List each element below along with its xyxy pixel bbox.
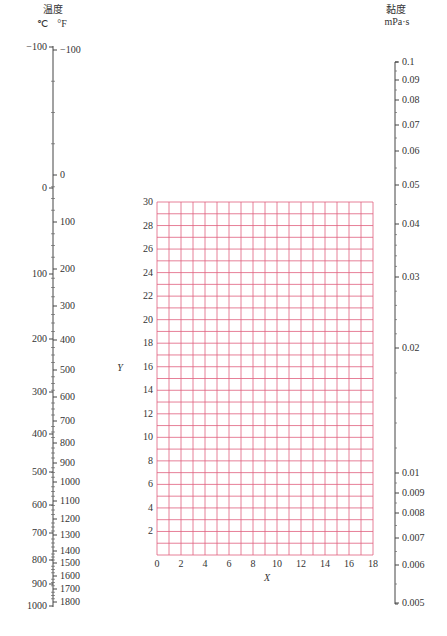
fahrenheit-tick-label: 300: [60, 301, 75, 311]
y-tick-label: 4: [148, 503, 153, 513]
celsius-tick-label: −100: [26, 42, 47, 52]
viscosity-tick-label: 0.01: [402, 468, 420, 478]
y-axis-label: Y: [117, 363, 123, 373]
temperature-axis-title: 温度: [43, 5, 63, 15]
viscosity-tick-label: 0.04: [402, 219, 420, 229]
x-tick-label: 6: [227, 559, 232, 569]
x-tick-label: 10: [272, 559, 282, 569]
fahrenheit-tick-label: 1300: [60, 530, 80, 540]
x-tick-label: 18: [368, 559, 378, 569]
celsius-tick-label: 900: [32, 579, 47, 589]
y-tick-label: 30: [143, 197, 153, 207]
y-tick-label: 6: [148, 479, 153, 489]
x-tick-label: 8: [251, 559, 256, 569]
x-tick-label: 16: [344, 559, 354, 569]
y-tick-label: 18: [143, 338, 153, 348]
fahrenheit-tick-label: 600: [60, 392, 75, 402]
viscosity-tick-label: 0.009: [402, 488, 425, 498]
viscosity-tick-label: 0.09: [402, 75, 420, 85]
x-tick-label: 12: [296, 559, 306, 569]
y-tick-label: 20: [143, 315, 153, 325]
y-tick-label: 24: [143, 268, 153, 278]
fahrenheit-tick-label: 1400: [60, 546, 80, 556]
fahrenheit-tick-label: 1200: [60, 514, 80, 524]
fahrenheit-tick-label: 1000: [60, 477, 80, 487]
viscosity-tick-label: 0.008: [402, 508, 425, 518]
fahrenheit-tick-label: 800: [60, 438, 75, 448]
fahrenheit-tick-label: 0: [60, 170, 65, 180]
x-tick-label: 0: [155, 559, 160, 569]
celsius-unit: ℃: [37, 19, 48, 29]
x-tick-label: 14: [320, 559, 330, 569]
fahrenheit-tick-label: 1500: [60, 558, 80, 568]
celsius-tick-label: 100: [32, 269, 47, 279]
y-tick-label: 14: [143, 385, 153, 395]
fahrenheit-tick-label: 100: [60, 217, 75, 227]
celsius-tick-label: 200: [32, 334, 47, 344]
celsius-tick-label: 600: [32, 500, 47, 510]
viscosity-unit: mPa·s: [385, 17, 410, 27]
nomograph-chart: [0, 0, 447, 636]
fahrenheit-tick-label: 1700: [60, 584, 80, 594]
viscosity-tick-label: 0.1: [402, 57, 415, 67]
fahrenheit-tick-label: 500: [60, 365, 75, 375]
fahrenheit-tick-label: 700: [60, 416, 75, 426]
viscosity-axis-title: 黏度: [386, 5, 406, 15]
fahrenheit-unit: °F: [57, 19, 67, 29]
x-tick-label: 2: [179, 559, 184, 569]
y-tick-label: 16: [143, 362, 153, 372]
fahrenheit-tick-label: 900: [60, 458, 75, 468]
y-tick-label: 12: [143, 409, 153, 419]
fahrenheit-tick-label: 200: [60, 264, 75, 274]
y-tick-label: 26: [143, 244, 153, 254]
celsius-tick-label: 700: [32, 528, 47, 538]
y-tick-label: 2: [148, 526, 153, 536]
y-tick-label: 8: [148, 456, 153, 466]
celsius-tick-label: 500: [32, 467, 47, 477]
celsius-tick-label: 300: [32, 387, 47, 397]
viscosity-tick-label: 0.006: [402, 560, 425, 570]
y-tick-label: 28: [143, 221, 153, 231]
celsius-tick-label: 0: [42, 183, 47, 193]
y-tick-label: 22: [143, 291, 153, 301]
fahrenheit-tick-label: 1600: [60, 571, 80, 581]
viscosity-tick-label: 0.03: [402, 272, 420, 282]
x-axis-label: X: [264, 573, 270, 583]
fahrenheit-tick-label: −100: [60, 45, 81, 55]
viscosity-tick-label: 0.05: [402, 180, 420, 190]
viscosity-tick-label: 0.06: [402, 146, 420, 156]
fahrenheit-tick-label: 1800: [60, 597, 80, 607]
celsius-tick-label: 1000: [27, 601, 47, 611]
celsius-tick-label: 800: [32, 555, 47, 565]
viscosity-tick-label: 0.02: [402, 343, 420, 353]
celsius-tick-label: 400: [32, 429, 47, 439]
viscosity-tick-label: 0.007: [402, 533, 425, 543]
fahrenheit-tick-label: 400: [60, 335, 75, 345]
viscosity-tick-label: 0.08: [402, 95, 420, 105]
viscosity-tick-label: 0.005: [402, 598, 425, 608]
x-tick-label: 4: [203, 559, 208, 569]
y-tick-label: 10: [143, 432, 153, 442]
viscosity-tick-label: 0.07: [402, 120, 420, 130]
fahrenheit-tick-label: 1100: [60, 496, 80, 506]
